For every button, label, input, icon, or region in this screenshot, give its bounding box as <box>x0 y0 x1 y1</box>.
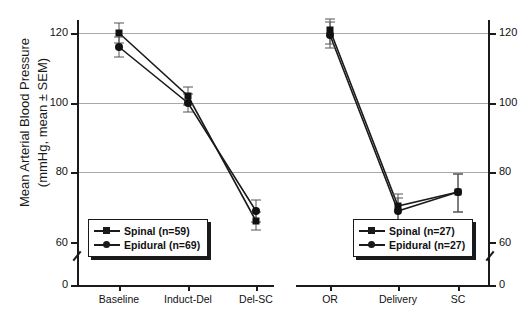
chart-figure: Mean Arterial Blood Pressure (mmHg, mean… <box>0 0 526 320</box>
circle-marker-icon <box>368 241 375 248</box>
legend-label-spinal-right: Spinal (n=27) <box>389 225 455 237</box>
legend-line-spinal-right <box>359 230 385 232</box>
right-panel-plot <box>0 0 526 320</box>
legend-line-epidural-right <box>359 244 385 246</box>
square-marker-icon <box>368 227 375 234</box>
legend-label-epidural-right: Epidural (n=27) <box>389 239 465 251</box>
right-spinal-line <box>330 30 458 206</box>
right-epidural-markers <box>326 31 462 215</box>
right-epidural-line <box>330 35 458 211</box>
right-panel-legend: Spinal (n=27) Epidural (n=27) <box>353 219 473 257</box>
right-spinal-errorbars <box>325 19 463 222</box>
legend-item-epidural-right: Epidural (n=27) <box>359 238 465 252</box>
legend-item-spinal-right: Spinal (n=27) <box>359 224 465 238</box>
right-spinal-markers <box>327 27 462 210</box>
